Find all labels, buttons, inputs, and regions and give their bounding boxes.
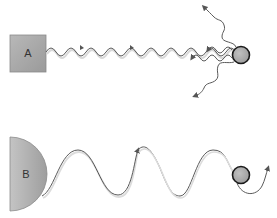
particle-a xyxy=(233,47,250,64)
scattered-wave-up xyxy=(204,7,236,47)
particle-b xyxy=(233,167,250,184)
wave-scattering-diagram: A B xyxy=(0,0,277,218)
scattered-wave-down xyxy=(195,62,234,96)
incident-wave-b-1 xyxy=(42,150,138,196)
scattered-wave-left-lower xyxy=(192,55,232,61)
arrow-icon xyxy=(80,45,84,50)
source-b-label: B xyxy=(22,168,29,180)
source-a-label: A xyxy=(24,47,32,59)
figure-b: B xyxy=(10,137,268,211)
figure-a: A xyxy=(10,7,250,96)
incident-wave-b-2-shadow xyxy=(139,149,233,198)
